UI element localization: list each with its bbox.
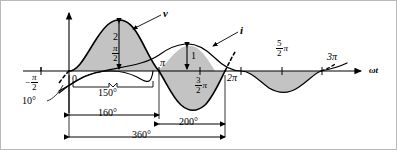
i-amplitude-label: 1 [191,51,196,61]
tick-label-five-half-pi: 52π [276,39,288,58]
tick-label-three-pi: 3π [327,52,337,62]
angle-150-label: 150° [98,88,117,98]
voltage-curve-label: v [163,8,168,19]
tick-label-three-half-pi: 32π [195,76,207,95]
angle-10-leader [47,85,63,101]
tick-neg-half-pi-den: 2 [31,82,38,92]
tick-5hpi-pi: π [283,44,289,53]
tick-label-pi: π [160,58,165,68]
pi-over-two-num: π [112,44,119,53]
tick-3hpi-pi: π [202,81,208,90]
v-amplitude-label: 2 [113,32,118,42]
i-shaded-region-negative [241,71,321,92]
tick-label-zero: 0 [72,74,77,84]
angle-10-label: 10° [22,96,36,106]
x-axis-label: ωt [369,66,378,75]
tick-label-two-pi: 2π [227,73,237,83]
voltage-label-leader [133,15,161,29]
waveform-figure: v i −π2 0 π 32π 2π 52π 3π ωt 2 π2 1 10° … [0,0,397,150]
current-label-leader [213,32,238,46]
voltage-waveform-dash-left [59,71,69,83]
dim-360-label: 360° [132,130,151,140]
current-curve-label: i [240,25,243,36]
pi-over-two-marker: π2 [112,44,119,63]
dim-200-label: 200° [179,117,198,127]
pi-over-two-den: 2 [112,53,119,63]
tick-label-neg-half-pi: −π2 [25,73,38,92]
dim-160-label: 160° [98,108,117,118]
tick-neg-half-pi-num: π [31,73,38,82]
